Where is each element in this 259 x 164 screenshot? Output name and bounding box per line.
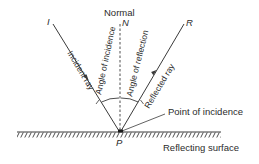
normal-label: Normal [104,7,135,18]
point-of-incidence-marker [118,130,123,133]
incident-point-label: I [47,16,50,27]
incidence-point-label: P [116,137,123,148]
point-of-incidence-label: Point of incidence [168,106,243,117]
incident-ray-label: Incident ray [65,49,97,92]
angle-of-incidence-arc [102,98,119,102]
angle-of-reflection-arc [121,98,138,102]
reflected-point-label: R [186,17,193,28]
reflection-diagram: Normal N I R P Angle of incidence Angle … [0,0,259,164]
angle-of-incidence-label: Angle of incidence [93,25,117,95]
point-of-incidence-leader [122,114,165,131]
reflecting-surface-label: Reflecting surface [163,142,239,153]
normal-point-label: N [122,17,129,28]
